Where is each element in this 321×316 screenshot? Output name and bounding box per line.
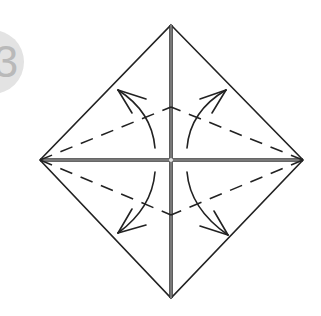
arrow-upper-right-icon [187,90,226,148]
arrow-upper-left-icon [118,90,155,148]
arrow-lower-right-icon [187,172,228,235]
fold-arrows [118,90,228,235]
center-creases [40,25,303,298]
arrow-lower-left-icon [118,172,155,233]
origami-fold-diagram [0,0,321,316]
